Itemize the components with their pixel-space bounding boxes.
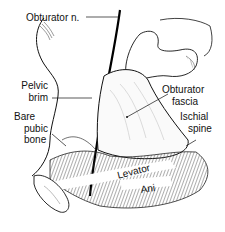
- label-ani: Ani: [140, 182, 156, 195]
- obturator-fascia: [97, 70, 188, 159]
- label-bare-pubic-bone-3: bone: [24, 134, 46, 145]
- label-ischial-spine-1: Ischial: [180, 111, 208, 122]
- label-pelvic-brim-2: brim: [20, 92, 48, 103]
- label-ischial-spine-2: spine: [188, 123, 212, 134]
- anatomy-illustration: Obturator n. Pelvic brim Bare pubic bone…: [0, 0, 225, 232]
- label-obturator-fascia-1: Obturator: [162, 84, 204, 95]
- label-bare-pubic-bone-1: Bare: [14, 111, 35, 122]
- label-obturator-fascia-2: fascia: [172, 96, 198, 107]
- label-bare-pubic-bone-2: pubic: [24, 123, 48, 134]
- label-pelvic-brim-1: Pelvic: [20, 80, 48, 91]
- label-obturator-nerve: Obturator n.: [26, 12, 79, 23]
